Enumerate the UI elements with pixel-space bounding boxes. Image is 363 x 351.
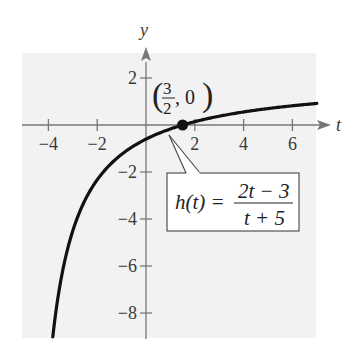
callout-lhs: h(t) = bbox=[175, 190, 225, 214]
x-tick-label: −2 bbox=[88, 134, 107, 154]
x-tick-label: 6 bbox=[288, 134, 297, 154]
left-paren: ( bbox=[152, 76, 163, 114]
function-callout: h(t) = 2t − 3 t + 5 bbox=[167, 173, 299, 231]
x-intercept-point bbox=[177, 120, 188, 131]
point-label-denominator: 2 bbox=[163, 99, 172, 118]
callout-numerator: 2t − 3 bbox=[238, 179, 290, 203]
y-tick-label: −6 bbox=[118, 256, 137, 276]
y-tick-label: −2 bbox=[118, 162, 137, 182]
x-tick-label: −4 bbox=[39, 134, 58, 154]
y-tick-label: −8 bbox=[118, 303, 137, 323]
y-tick-label: 2 bbox=[128, 68, 137, 88]
y-axis-label: y bbox=[138, 20, 148, 40]
x-tick-label: 4 bbox=[239, 134, 248, 154]
x-axis-label: t bbox=[336, 115, 342, 135]
y-tick-label: −4 bbox=[118, 209, 137, 229]
x-tick-label: 2 bbox=[190, 134, 199, 154]
point-label-numerator: 3 bbox=[163, 79, 172, 98]
point-label-rest: , 0 bbox=[175, 86, 195, 108]
right-paren: ) bbox=[202, 76, 213, 114]
callout-denominator: t + 5 bbox=[244, 206, 285, 230]
function-graph: t −4−2246 y 2−2−4−6−8 ( 3 2 , 0 ) h(t) =… bbox=[0, 0, 363, 351]
